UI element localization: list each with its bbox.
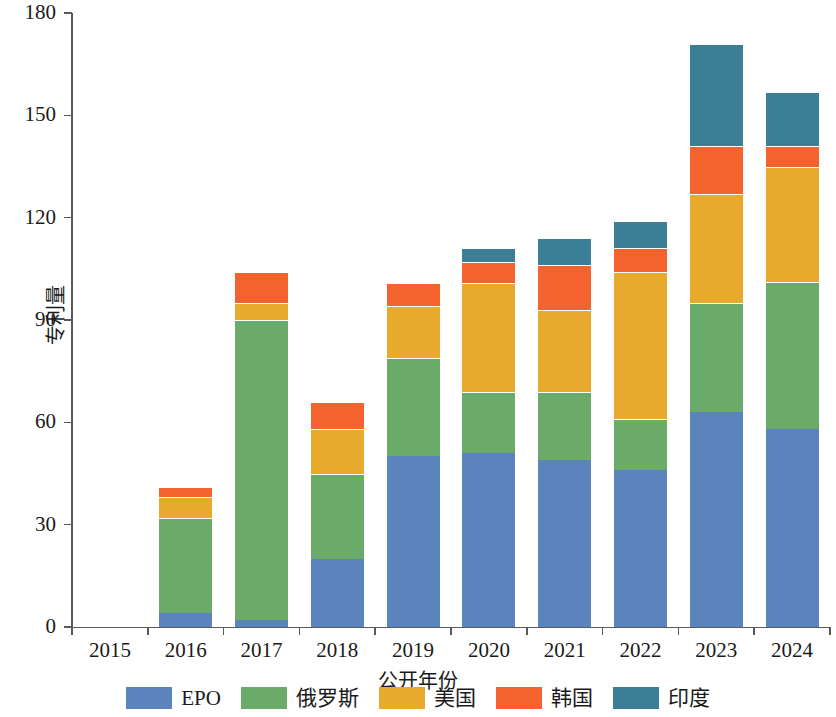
x-axis-tick bbox=[526, 627, 528, 635]
bar-segment-美国 bbox=[690, 194, 743, 303]
bar-segment-EPO bbox=[159, 613, 212, 627]
bar-segment-俄罗斯 bbox=[462, 392, 515, 453]
bar-segment-俄罗斯 bbox=[235, 320, 288, 620]
x-axis-tick-label: 2023 bbox=[676, 638, 756, 662]
bar-segment-俄罗斯 bbox=[311, 474, 364, 559]
x-axis-tick-label: 2021 bbox=[525, 638, 605, 662]
y-axis-tick bbox=[64, 524, 72, 526]
bar-segment-韩国 bbox=[614, 248, 667, 272]
legend-item-印度[interactable]: 印度 bbox=[613, 687, 710, 709]
bar-segment-美国 bbox=[159, 497, 212, 517]
bar-segment-印度 bbox=[462, 248, 515, 262]
bar-segment-印度 bbox=[766, 92, 819, 147]
bar-segment-印度 bbox=[614, 221, 667, 248]
legend-swatch-icon bbox=[613, 687, 659, 709]
bar bbox=[690, 44, 743, 627]
chart-legend: EPO俄罗斯美国韩国印度 bbox=[0, 687, 836, 709]
bar bbox=[311, 402, 364, 627]
x-axis-tick bbox=[678, 627, 680, 635]
legend-label: EPO bbox=[181, 688, 221, 709]
bar-stack-2016 bbox=[159, 487, 212, 627]
bar bbox=[766, 91, 819, 627]
x-axis-tick bbox=[223, 627, 225, 635]
bar-stack-2022 bbox=[614, 221, 667, 627]
y-axis-tick bbox=[64, 422, 72, 424]
bar-stack-2024 bbox=[766, 91, 819, 627]
legend-swatch-icon bbox=[126, 687, 172, 709]
bar-stack-2017 bbox=[235, 272, 288, 627]
stacked-bar-chart-figure: 0306090120150180 20152016201720182019202… bbox=[0, 0, 836, 717]
legend-item-美国[interactable]: 美国 bbox=[379, 687, 476, 709]
bar-stack-2021 bbox=[538, 238, 591, 627]
x-axis-tick-label: 2020 bbox=[449, 638, 529, 662]
x-axis-tick bbox=[829, 627, 831, 635]
legend-label: 美国 bbox=[434, 688, 476, 709]
bar-segment-韩国 bbox=[235, 272, 288, 303]
bar-segment-韩国 bbox=[462, 262, 515, 282]
x-axis-tick-label: 2019 bbox=[373, 638, 453, 662]
bar-segment-EPO bbox=[538, 460, 591, 627]
legend-label: 韩国 bbox=[551, 688, 593, 709]
bar-stack-2018 bbox=[311, 402, 364, 627]
x-axis-tick bbox=[71, 627, 73, 635]
bar-segment-美国 bbox=[462, 283, 515, 392]
x-axis-tick bbox=[450, 627, 452, 635]
bar-segment-韩国 bbox=[311, 402, 364, 429]
y-axis-tick-label: 30 bbox=[0, 514, 56, 535]
y-axis-title: 专利量 bbox=[40, 255, 69, 375]
x-axis-tick-label: 2017 bbox=[222, 638, 302, 662]
legend-swatch-icon bbox=[379, 687, 425, 709]
bar-segment-印度 bbox=[538, 238, 591, 265]
bar-segment-美国 bbox=[614, 272, 667, 419]
legend-swatch-icon bbox=[496, 687, 542, 709]
bar-segment-EPO bbox=[690, 412, 743, 627]
bar-segment-俄罗斯 bbox=[614, 419, 667, 470]
bar-segment-美国 bbox=[311, 429, 364, 473]
bar-segment-韩国 bbox=[387, 283, 440, 307]
bar bbox=[614, 221, 667, 627]
y-axis-tick bbox=[64, 115, 72, 117]
bar-segment-韩国 bbox=[538, 265, 591, 309]
bar-segment-俄罗斯 bbox=[690, 303, 743, 412]
y-axis-tick-label: 60 bbox=[0, 411, 56, 432]
bar bbox=[538, 238, 591, 627]
y-axis-tick bbox=[64, 217, 72, 219]
x-axis-tick-label: 2015 bbox=[70, 638, 150, 662]
legend-label: 俄罗斯 bbox=[296, 688, 359, 709]
legend-item-EPO[interactable]: EPO bbox=[126, 687, 221, 709]
bar bbox=[235, 272, 288, 627]
x-axis-tick-label: 2022 bbox=[601, 638, 681, 662]
legend-swatch-icon bbox=[241, 687, 287, 709]
bar-segment-EPO bbox=[387, 456, 440, 627]
bar-segment-EPO bbox=[462, 453, 515, 627]
bar bbox=[462, 248, 515, 627]
bar-stack-2019 bbox=[387, 282, 440, 627]
bar-segment-美国 bbox=[538, 310, 591, 392]
bar-stack-2020 bbox=[462, 248, 515, 627]
legend-label: 印度 bbox=[668, 688, 710, 709]
bar-segment-韩国 bbox=[690, 146, 743, 194]
x-axis-tick bbox=[374, 627, 376, 635]
bar-segment-EPO bbox=[235, 620, 288, 627]
bar-segment-韩国 bbox=[159, 487, 212, 497]
bar-segment-EPO bbox=[766, 429, 819, 627]
bar-segment-EPO bbox=[311, 559, 364, 627]
x-axis-tick-label: 2024 bbox=[752, 638, 832, 662]
bar bbox=[159, 487, 212, 627]
bar-segment-美国 bbox=[235, 303, 288, 320]
bar-segment-俄罗斯 bbox=[159, 518, 212, 614]
x-axis-tick-label: 2016 bbox=[146, 638, 226, 662]
y-axis-tick bbox=[64, 12, 72, 14]
bar-segment-俄罗斯 bbox=[766, 282, 819, 429]
bar-segment-EPO bbox=[614, 470, 667, 627]
legend-item-韩国[interactable]: 韩国 bbox=[496, 687, 593, 709]
bar-segment-美国 bbox=[766, 167, 819, 283]
bar-segment-俄罗斯 bbox=[538, 392, 591, 460]
y-axis-tick-label: 180 bbox=[0, 2, 56, 23]
x-axis-tick-label: 2018 bbox=[297, 638, 377, 662]
bar-segment-美国 bbox=[387, 306, 440, 357]
plot-area bbox=[72, 13, 830, 627]
legend-item-俄罗斯[interactable]: 俄罗斯 bbox=[241, 687, 359, 709]
x-axis-tick bbox=[299, 627, 301, 635]
y-axis-tick-label: 0 bbox=[0, 616, 56, 637]
